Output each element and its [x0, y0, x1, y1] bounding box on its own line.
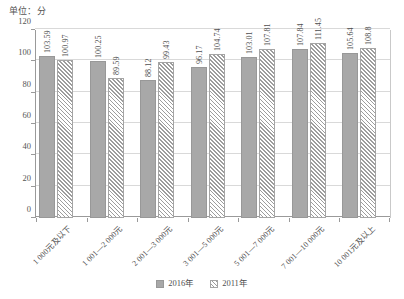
y-axis-tick-label: 120 — [18, 17, 31, 26]
bar-2016: 107.84 — [292, 49, 308, 218]
y-axis-tick-label: 40 — [23, 142, 32, 151]
x-axis-category-label: 1 001—2 000元 — [80, 224, 124, 268]
bar-2011: 99.43 — [158, 62, 174, 218]
bar-2011: 111.45 — [310, 43, 326, 218]
x-axis-ticks — [36, 218, 390, 222]
bar-2016: 100.25 — [90, 61, 106, 218]
bar-chart: 单位：分 020406080100120 103.59100.97100.258… — [0, 0, 404, 299]
bar-value-label: 96.17 — [195, 46, 203, 65]
bar-value-label: 103.01 — [246, 31, 254, 54]
bar-group: 100.2589.59 — [87, 30, 138, 218]
x-axis-category-label: 3 001—5 000元 — [181, 224, 225, 268]
y-axis-tick-label: 80 — [23, 80, 32, 89]
x-axis-category-label: 10 001元及以上 — [332, 224, 377, 269]
bar-group: 103.01107.81 — [238, 30, 289, 218]
bar-group: 105.64108.8 — [339, 30, 390, 218]
bar-value-label: 107.81 — [264, 24, 272, 47]
bar-2016: 96.17 — [191, 67, 207, 218]
legend-label-2011: 2011年 — [222, 279, 248, 288]
bar-value-label: 103.59 — [44, 30, 52, 53]
bar-value-label: 108.8 — [365, 26, 373, 45]
bar-value-label: 100.97 — [62, 34, 70, 57]
bar-group: 107.84111.45 — [289, 30, 340, 218]
solid-gray-swatch-icon — [156, 280, 164, 288]
x-axis-tick-mark — [339, 218, 340, 222]
bar-2011: 89.59 — [108, 78, 124, 218]
bar-value-label: 105.64 — [347, 27, 355, 50]
bar-2016: 103.59 — [39, 56, 55, 218]
bar-2011: 100.97 — [57, 60, 73, 218]
x-axis-tick-mark — [188, 218, 189, 222]
bar-value-label: 88.12 — [145, 58, 153, 77]
bar-2016: 105.64 — [342, 53, 358, 219]
x-axis-category-label: 7 001—10 000元 — [280, 224, 327, 271]
legend-item-2011: 2011年 — [210, 279, 248, 288]
y-axis-tick-label: 20 — [23, 174, 32, 183]
x-axis-labels: 1 000元及以下1 001—2 000元2 001—3 000元3 001—5… — [36, 224, 396, 276]
y-axis-tick-label: 0 — [27, 205, 31, 214]
bar-group: 88.1299.43 — [137, 30, 188, 218]
bar-2011: 107.81 — [259, 49, 275, 218]
legend-label-2016: 2016年 — [168, 279, 194, 288]
y-axis-tick-label: 60 — [23, 111, 32, 120]
bar-2011: 104.74 — [209, 54, 225, 218]
hatched-swatch-icon — [210, 280, 218, 288]
bar-value-label: 100.25 — [94, 35, 102, 58]
x-axis-tick-mark — [289, 218, 290, 222]
bar-value-label: 111.45 — [314, 18, 322, 40]
bar-value-label: 99.43 — [163, 41, 171, 60]
bar-value-label: 107.84 — [296, 23, 304, 46]
x-axis-category-label: 2 001—3 000元 — [131, 224, 175, 268]
y-axis: 020406080100120 — [0, 30, 31, 218]
x-axis-tick-mark — [137, 218, 138, 222]
plot-right-border — [390, 30, 391, 218]
y-axis-tick-label: 100 — [18, 48, 31, 57]
x-axis-category-label: 1 000元及以下 — [31, 224, 73, 266]
bar-2016: 103.01 — [241, 57, 257, 218]
bar-2016: 88.12 — [140, 80, 156, 218]
x-axis-tick-mark — [36, 218, 37, 222]
legend-item-2016: 2016年 — [156, 279, 194, 288]
bar-groups: 103.59100.97100.2589.5988.1299.4396.1710… — [36, 30, 390, 218]
bar-value-label: 104.74 — [213, 28, 221, 51]
x-axis-tick-mark — [87, 218, 88, 222]
bar-group: 103.59100.97 — [36, 30, 87, 218]
x-axis-category-label: 5 001—7 000元 — [232, 224, 276, 268]
x-axis-tick-mark — [389, 218, 390, 222]
bar-group: 96.17104.74 — [188, 30, 239, 218]
x-axis-tick-mark — [238, 218, 239, 222]
chart-legend: 2016年 2011年 — [0, 279, 404, 288]
bar-value-label: 89.59 — [112, 56, 120, 75]
bar-2011: 108.8 — [360, 48, 376, 218]
